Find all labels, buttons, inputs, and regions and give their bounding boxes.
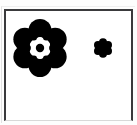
rosette-large-gap-notch xyxy=(24,45,31,52)
rosette-large-gap-notch xyxy=(49,45,56,52)
rosette-small-shape xyxy=(92,37,114,59)
rosette-large-gap-notch xyxy=(43,55,50,62)
image-viewport xyxy=(0,0,137,125)
rosette-large-gap-notch xyxy=(31,55,38,62)
rosette-large-gap-notch xyxy=(31,34,38,41)
rosette-small-petal xyxy=(94,41,102,49)
rosette-large-gap-notch xyxy=(43,34,50,41)
rosette-large-shape xyxy=(9,17,71,79)
rosette-large-core-dot xyxy=(36,44,44,52)
